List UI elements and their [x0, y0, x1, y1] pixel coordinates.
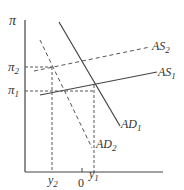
- y-axis-label: π: [9, 13, 17, 28]
- as1-label: AS1: [157, 65, 176, 81]
- as2-label: AS2: [151, 39, 170, 55]
- as1-curve: [40, 72, 157, 95]
- ad2-label: AD2: [95, 137, 117, 153]
- ad1-curve: [59, 22, 120, 126]
- as-ad-diagram: π π2 π1 y2 0 y1 AS2 AS1 AD1 AD2: [0, 0, 184, 190]
- ad1-label: AD1: [120, 117, 142, 133]
- y1-label: y1: [88, 167, 99, 183]
- pi1-label: π1: [8, 82, 19, 99]
- pi2-label: π2: [8, 59, 20, 76]
- zero-label: 0: [78, 176, 84, 190]
- y2-label: y2: [47, 173, 58, 189]
